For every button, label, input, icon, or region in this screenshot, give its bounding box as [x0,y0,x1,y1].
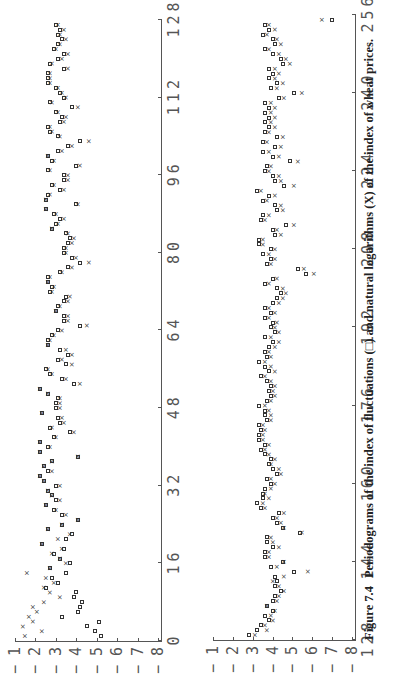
x-tick [352,248,356,249]
log-point: × [20,624,27,630]
log-point: × [271,456,278,462]
log-point: × [56,395,63,401]
log-point: × [54,85,61,91]
x-tick-label: 128 [165,0,183,38]
log-point: × [54,22,61,28]
log-point: × [267,334,274,340]
y-tick-label: − 8 [343,646,361,680]
log-point: × [311,271,318,277]
fluctuation-point [78,139,82,143]
figure-label: Figure 7.4 [362,586,376,640]
log-point: × [259,422,266,428]
log-point: × [263,603,270,609]
fluctuation-point [304,272,308,276]
y-tick-label: − 7 [129,647,147,680]
x-axis [355,14,356,641]
log-point: × [46,444,53,450]
y-tick [35,638,36,642]
log-point: × [71,235,78,241]
fluctuation-point [80,600,84,604]
log-point: × [273,320,280,326]
log-point: × [281,574,288,580]
log-point: × [50,158,57,164]
log-point: × [267,100,274,106]
fluctuation-point [284,223,288,227]
x-tick [158,562,162,563]
x-tick [158,19,162,20]
fluctuation-point [74,590,78,594]
log-point: × [271,193,278,199]
log-point: × [44,488,51,494]
log-point: × [38,410,45,416]
x-tick-label: 16 [165,548,183,574]
fluctuation-point [330,18,334,22]
y-tick-label: − 3 [47,647,65,680]
log-point: × [56,134,63,140]
y-tick [352,637,353,641]
log-point: × [56,556,63,562]
log-point: × [319,17,326,23]
fluctuation-point [292,570,296,574]
x-tick [158,485,162,486]
log-point: × [275,173,282,179]
y-tick [76,638,77,642]
log-point: × [273,36,280,42]
periodogram-panel-low: 0163248648096112128− 1− 2− 3− 4− 5− 6− 7… [0,0,175,680]
x-tick-label: 32 [165,471,183,497]
log-point: × [30,604,37,610]
log-point: × [54,536,61,542]
x-tick [352,92,356,93]
log-point: × [275,583,282,589]
y-tick-label: − 4 [264,646,282,680]
x-tick-label: 256 [359,0,377,33]
log-point: × [46,124,53,130]
x-tick [352,483,356,484]
log-point: × [65,313,72,319]
log-point: × [275,51,282,57]
log-point: × [265,22,272,28]
x-tick [352,14,356,15]
y-tick [158,638,159,642]
log-point: × [67,294,74,300]
log-point: × [77,381,84,387]
log-point: × [271,310,278,316]
caption-text: Periodograms of the index of fluctuation… [362,39,376,578]
log-point: × [279,80,286,86]
fluctuation-point [282,184,286,188]
log-point: × [36,386,43,392]
log-point: × [267,535,274,541]
log-point: × [63,347,70,353]
log-point: × [283,56,290,62]
fluctuation-point [76,610,80,614]
log-point: × [269,578,276,584]
y-tick [292,637,293,641]
log-point: × [44,153,51,159]
x-tick-label: 48 [165,393,183,419]
log-point: × [75,201,82,207]
log-point: × [273,515,280,521]
log-point: × [299,90,306,96]
log-point: × [50,332,57,338]
y-tick-label: − 5 [283,646,301,680]
y-tick-label: − 8 [149,647,167,680]
log-point: × [48,100,55,106]
log-point: × [69,362,76,368]
log-point: × [85,138,92,144]
log-point: × [44,366,51,372]
fluctuation-point [78,605,82,609]
y-tick [332,637,333,641]
log-point: × [38,628,45,634]
y-tick [213,637,214,641]
log-point: × [36,473,43,479]
x-tick-label: 0 [165,632,183,645]
log-point: × [279,134,286,140]
y-tick [56,638,57,642]
log-point: × [26,614,33,620]
log-point: × [273,227,280,233]
log-point: × [63,376,70,382]
log-point: × [265,212,272,218]
x-tick [158,407,162,408]
log-point: × [277,203,284,209]
figure: 0163248648096112128− 1− 2− 3− 4− 5− 6− 7… [0,0,398,680]
log-point: × [265,281,272,287]
